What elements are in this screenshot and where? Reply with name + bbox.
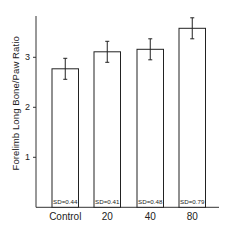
sd-annotation: SD=0.44: [53, 198, 78, 205]
bar: [137, 49, 164, 207]
bar: [94, 52, 121, 208]
x-tick-label: 40: [145, 211, 157, 222]
bars: [52, 18, 206, 208]
y-tick-label: 3: [25, 52, 30, 62]
bar: [179, 28, 206, 207]
x-tick-label: 80: [187, 211, 199, 222]
bar-chart: 123 SD=0.44ControlSD=0.4120SD=0.4840SD=0…: [0, 0, 233, 225]
y-tick-label: 2: [25, 102, 30, 112]
labels: SD=0.44ControlSD=0.4120SD=0.4840SD=0.798…: [49, 198, 205, 222]
sd-annotation: SD=0.41: [95, 198, 120, 205]
x-tick-label: 20: [102, 211, 114, 222]
x-tick-label: Control: [49, 211, 81, 222]
sd-annotation: SD=0.48: [138, 198, 163, 205]
bar: [52, 69, 79, 208]
sd-annotation: SD=0.79: [180, 198, 205, 205]
y-tick-label: 1: [25, 152, 30, 162]
